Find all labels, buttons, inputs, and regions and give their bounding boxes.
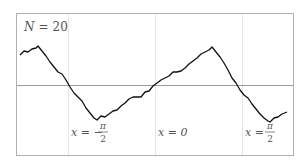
label-neg-pi-half-prefix: x = − [71, 126, 103, 139]
annotation-n: N=20 [23, 20, 68, 34]
label-zero: x = 0 [158, 126, 187, 139]
label-neg-pi-half-den: 2 [100, 134, 106, 144]
label-pi-half-num: π [266, 121, 274, 131]
label-neg-pi-half-num: π [99, 121, 107, 131]
plot-canvas: N=20 x = − π 2 x = 0 x = π 2 [0, 0, 307, 165]
annotation-eq: = [39, 20, 49, 34]
annotation-var: N [23, 20, 35, 34]
annotation-value: 20 [53, 20, 68, 34]
label-pi-half-prefix: x = [245, 126, 264, 139]
plot-figure: N=20 x = − π 2 x = 0 x = π 2 [0, 0, 307, 165]
label-pi-half-den: 2 [267, 134, 273, 144]
